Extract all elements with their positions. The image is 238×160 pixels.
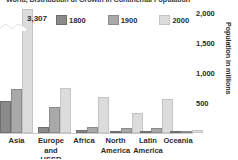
bar-europe-1900[interactable]: [49, 107, 60, 133]
chart-legend: 1800 1900 2000: [56, 15, 211, 25]
x-label-europe-ussr: Europe and USSR: [33, 136, 69, 159]
x-label-africa-line1: Africa: [73, 136, 94, 145]
legend-label-1900: 1900: [121, 16, 138, 25]
bar-group-north-america: [110, 113, 143, 133]
bar-africa-2000[interactable]: [98, 97, 109, 133]
legend-item-1800[interactable]: 1800: [56, 15, 86, 25]
legend-swatch-1800-icon: [56, 15, 67, 25]
bar-europe-1800[interactable]: [38, 127, 49, 133]
bar-europe-2000[interactable]: [60, 88, 71, 133]
x-axis-labels: Asia Europe and USSR Africa North Americ…: [0, 136, 193, 159]
bar-group-asia: [0, 9, 33, 133]
x-label-europe-line2: and USSR: [33, 146, 69, 160]
bar-group-latin-america: [140, 99, 173, 133]
bar-group-europe-ussr: [38, 88, 71, 133]
asia-2000-value-label: 3,307: [27, 14, 47, 23]
bar-latin-america-2000[interactable]: [162, 99, 173, 133]
population-bar-chart: World, Distribution of Growth in Contine…: [0, 0, 238, 159]
chart-title: World, Distribution of Growth in Contine…: [6, 0, 190, 4]
y-axis-title: Population in millions: [224, 22, 233, 94]
x-label-latin-america: Latin America: [132, 136, 164, 155]
x-label-oceania: Oceania: [162, 136, 194, 146]
bar-africa-1800[interactable]: [76, 130, 87, 133]
x-label-oceania-line1: Oceania: [163, 136, 192, 145]
x-axis-baseline: [0, 133, 193, 134]
bar-asia-2000[interactable]: [22, 9, 33, 133]
bar-africa-1900[interactable]: [87, 127, 98, 133]
x-label-latin-america-line2: America: [132, 146, 164, 156]
y-tick-500: 500: [196, 99, 226, 108]
bar-north-america-1900[interactable]: [121, 128, 132, 133]
x-label-north-america: North America: [99, 136, 132, 155]
x-label-asia-line1: Asia: [9, 136, 25, 145]
y-tick-1000: 1,000: [196, 69, 226, 78]
x-label-north-america-line2: America: [99, 146, 132, 156]
x-label-africa: Africa: [69, 136, 99, 146]
bar-asia-1800[interactable]: [0, 101, 11, 133]
legend-swatch-1900-icon: [108, 15, 119, 25]
y-axis: 2,000 1,500 1,000 500: [196, 0, 226, 159]
bar-oceania-1900[interactable]: [181, 131, 192, 133]
y-tick-2000: 2,000: [196, 9, 226, 18]
legend-swatch-2000-icon: [159, 15, 170, 25]
legend-item-1900[interactable]: 1900: [108, 15, 138, 25]
x-label-latin-america-line1: Latin: [139, 136, 157, 145]
bar-latin-america-1800[interactable]: [140, 131, 151, 133]
x-label-asia: Asia: [0, 136, 33, 146]
legend-item-2000[interactable]: 2000: [159, 15, 189, 25]
legend-label-2000: 2000: [172, 16, 189, 25]
bar-latin-america-1900[interactable]: [151, 128, 162, 133]
legend-label-1800: 1800: [69, 16, 86, 25]
x-label-europe-line1: Europe: [38, 136, 64, 145]
bar-oceania-1800[interactable]: [170, 131, 181, 133]
bar-asia-1900[interactable]: [11, 89, 22, 133]
bar-group-africa: [76, 97, 109, 133]
bar-north-america-1800[interactable]: [110, 131, 121, 133]
y-tick-1500: 1,500: [196, 39, 226, 48]
x-label-north-america-line1: North: [106, 136, 126, 145]
